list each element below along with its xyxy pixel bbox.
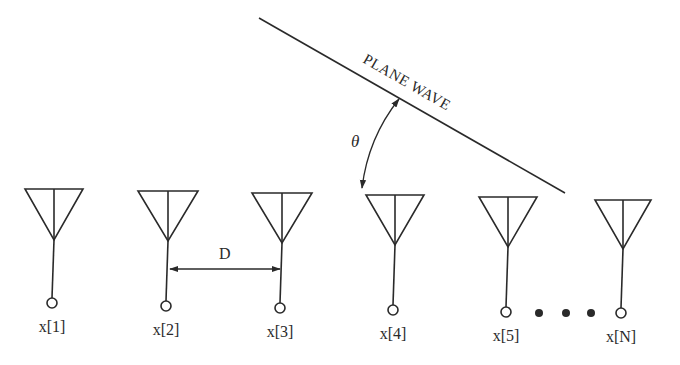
- output-node-icon: [501, 307, 511, 317]
- feed-line: [393, 245, 395, 305]
- antenna-element: x[5]: [479, 197, 537, 344]
- angle-theta-arc: [362, 99, 399, 188]
- output-node-icon: [616, 308, 626, 318]
- antenna-array-diagram: PLANE WAVE θ x[1]x[2]x[3]x[4]x[5]x[N] D: [0, 0, 680, 365]
- feed-line: [166, 241, 168, 301]
- plane-wave-line: [259, 18, 565, 193]
- feed-line: [280, 243, 282, 303]
- ellipsis-dot: [562, 309, 570, 317]
- element-label: x[1]: [39, 318, 66, 335]
- ellipsis-dots: [535, 309, 595, 317]
- element-label: x[5]: [493, 327, 520, 344]
- feed-line: [621, 249, 623, 308]
- output-node-icon: [388, 305, 398, 315]
- feed-line: [52, 240, 54, 298]
- element-label: x[3]: [267, 323, 294, 340]
- output-node-icon: [161, 301, 171, 311]
- antenna-element: x[4]: [366, 195, 424, 342]
- ellipsis-dot: [587, 309, 595, 317]
- antenna-elements: x[1]x[2]x[3]x[4]x[5]x[N]: [25, 189, 651, 345]
- element-label: x[N]: [606, 328, 636, 345]
- angle-theta-label: θ: [351, 132, 359, 151]
- antenna-element: x[N]: [595, 200, 651, 345]
- plane-wave-label: PLANE WAVE: [361, 51, 454, 114]
- output-node-icon: [275, 303, 285, 313]
- ellipsis-dot: [535, 309, 543, 317]
- antenna-element: x[3]: [252, 193, 312, 340]
- antenna-element: x[1]: [25, 189, 83, 335]
- element-label: x[2]: [153, 321, 180, 338]
- output-node-icon: [47, 298, 57, 308]
- antenna-element: x[2]: [138, 191, 198, 338]
- feed-line: [506, 247, 508, 307]
- element-label: x[4]: [380, 325, 407, 342]
- spacing-d-label: D: [219, 245, 231, 262]
